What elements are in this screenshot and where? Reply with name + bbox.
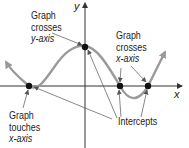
pointer-crosses-x-2	[131, 66, 146, 82]
pointer-crosses-x-1	[120, 68, 121, 82]
label-crosses-x: Graph crosses x-axis	[116, 30, 147, 64]
cross-x-intercept-point-1	[117, 83, 123, 89]
label-intercepts: Intercepts	[118, 116, 157, 127]
label-touches-x: Graph touches x-axis	[9, 110, 40, 144]
function-curve	[6, 62, 29, 86]
x-axis-label: x	[174, 88, 180, 100]
touch-x-intercept-point	[26, 83, 32, 89]
pointer-touches-x	[23, 90, 28, 108]
cross-x-intercept-point-2	[145, 83, 151, 89]
pointer-intercept-touch	[34, 87, 112, 119]
pointer-intercept-x1	[119, 90, 121, 117]
y-intercept-point	[82, 44, 88, 50]
y-axis-label: y	[74, 0, 80, 12]
label-crosses-y: Graph crosses y-axis	[31, 10, 62, 44]
